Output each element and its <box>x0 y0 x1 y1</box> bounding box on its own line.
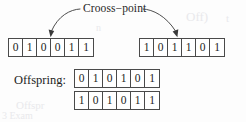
bit-cell: 0 <box>131 70 145 87</box>
bit-cell: 0 <box>89 92 103 109</box>
bit-cell: 0 <box>75 70 89 87</box>
left-arrowhead-icon <box>49 29 55 37</box>
ghost-artifact: Off) <box>186 9 208 25</box>
bit-cell: 1 <box>182 39 196 56</box>
bit-cell: 1 <box>145 70 159 87</box>
bit-cell: 1 <box>131 92 145 109</box>
ghost-artifact: 3 Exam <box>2 110 33 121</box>
bit-cell: 1 <box>210 39 224 56</box>
parent-chromosome-a: 0 1 0 0 1 1 <box>8 38 94 57</box>
bit-cell: 1 <box>140 39 154 56</box>
bit-cell: 0 <box>117 92 131 109</box>
bit-cell: 0 <box>37 39 51 56</box>
parent-chromosome-b: 1 0 1 1 0 1 <box>139 38 225 57</box>
ghost-artifact: n <box>96 22 101 33</box>
figure-canvas: Off) t Offspr 3 Exam n Crooss−point 0 1 … <box>0 0 246 122</box>
offspring-chromosome-b: 1 0 1 0 1 1 <box>74 91 160 110</box>
bit-cell: 1 <box>89 70 103 87</box>
bit-cell: 0 <box>103 70 117 87</box>
bit-cell: 1 <box>79 39 93 56</box>
bit-cell: 0 <box>51 39 65 56</box>
bit-cell: 1 <box>168 39 182 56</box>
ghost-artifact: t <box>226 12 229 24</box>
left-arrow-icon <box>52 9 81 31</box>
bit-cell: 1 <box>117 70 131 87</box>
bit-cell: 0 <box>196 39 210 56</box>
offspring-chromosome-a: 0 1 0 1 0 1 <box>74 69 160 88</box>
ghost-artifact: Offspr <box>16 99 45 111</box>
crossover-point-label: Crooss−point <box>83 2 146 15</box>
bit-cell: 1 <box>75 92 89 109</box>
bit-cell: 1 <box>103 92 117 109</box>
bit-cell: 1 <box>23 39 37 56</box>
offspring-label: Offspring: <box>14 73 66 87</box>
bit-cell: 0 <box>9 39 23 56</box>
bit-cell: 0 <box>154 39 168 56</box>
bit-cell: 1 <box>65 39 79 56</box>
bit-cell: 1 <box>145 92 159 109</box>
right-arrow-icon <box>143 9 176 31</box>
right-arrowhead-icon <box>173 29 179 37</box>
